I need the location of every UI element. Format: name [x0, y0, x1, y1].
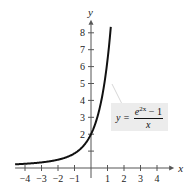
x-tick-label: 4: [155, 173, 160, 184]
x-tick-label: 2: [122, 173, 127, 184]
equation-lhs: y =: [116, 112, 130, 123]
y-tick-label: 2: [80, 129, 85, 140]
curve-path: [15, 27, 111, 164]
eq-rest: − 1: [146, 107, 162, 118]
x-axis-label: x: [177, 162, 183, 174]
equation-label: y = e2x − 1 x: [111, 103, 168, 131]
equation-fraction: e2x − 1 x: [134, 104, 163, 129]
y-tick-label: 6: [80, 61, 85, 72]
y-tick-label: 4: [80, 95, 85, 106]
axes: xy: [15, 6, 183, 178]
plot-area: xy −4−3−2−112342345678: [0, 0, 187, 193]
y-tick-label: 5: [80, 78, 85, 89]
y-tick-label: 3: [80, 112, 85, 123]
x-axis-arrow-icon: [169, 166, 174, 171]
x-tick-label: 1: [105, 173, 110, 184]
x-tick-label: −2: [53, 173, 64, 184]
equation-numerator: e2x − 1: [134, 104, 163, 118]
y-axis-arrow-icon: [89, 20, 94, 25]
x-tick-label: −4: [20, 173, 31, 184]
equation-denominator: x: [146, 119, 150, 130]
y-tick-label: 8: [80, 27, 85, 38]
y-axis-label: y: [87, 6, 93, 18]
x-tick-label: −1: [69, 173, 80, 184]
annotation-leader-line: [112, 84, 122, 104]
y-tick-label: 7: [80, 44, 85, 55]
x-tick-label: 3: [138, 173, 143, 184]
x-tick-label: −3: [36, 173, 47, 184]
function-curve: [15, 27, 111, 164]
